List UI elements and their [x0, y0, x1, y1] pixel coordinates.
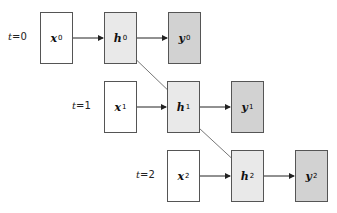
output-symbol: y — [306, 170, 312, 183]
output-box-y1: y1 — [231, 81, 264, 133]
output-symbol: y — [242, 101, 248, 114]
input-symbol: x — [50, 32, 57, 45]
time-label-1: t=1 — [72, 100, 91, 111]
rnn-unrolled-diagram: t=0 x0 h0 y0 t=1 x1 h1 y1 t=2 x2 h2 y2 — [0, 0, 337, 213]
input-symbol: x — [177, 170, 184, 183]
time-label-0: t=0 — [8, 31, 27, 42]
hidden-box-h1: h1 — [167, 81, 200, 133]
output-symbol: y — [179, 32, 185, 45]
input-box-x0: x0 — [40, 12, 73, 64]
time-label-2: t=2 — [136, 169, 155, 180]
input-box-x2: x2 — [167, 150, 200, 202]
hidden-symbol: h — [114, 32, 122, 45]
hidden-symbol: h — [241, 170, 249, 183]
input-box-x1: x1 — [104, 81, 137, 133]
output-box-y0: y0 — [168, 12, 201, 64]
input-symbol: x — [114, 101, 121, 114]
hidden-symbol: h — [177, 101, 185, 114]
output-box-y2: y2 — [295, 150, 328, 202]
hidden-box-h0: h0 — [104, 12, 137, 64]
hidden-box-h2: h2 — [231, 150, 264, 202]
